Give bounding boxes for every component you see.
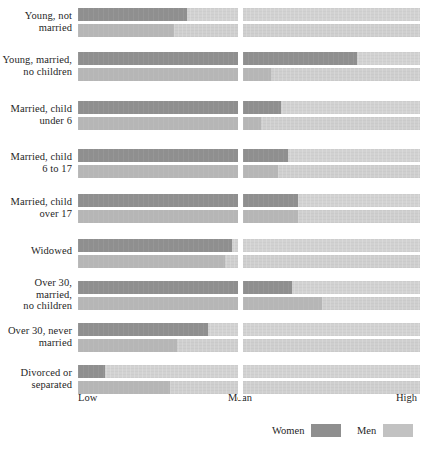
plot-area: Young, notmarriedYoung, married,no child… (0, 0, 435, 400)
row-label-line: over 17 (0, 208, 72, 220)
row-label-line: no children (0, 300, 72, 312)
bar-men-row-1 (78, 24, 420, 37)
bar-women-row-6 (78, 239, 420, 252)
legend-swatch-women (311, 424, 341, 437)
legend-label-men: Men (357, 425, 376, 436)
bar-women-row-5 (78, 194, 420, 207)
axis-tick-low: Low (78, 392, 97, 403)
row-label-2: Young, married,no children (0, 54, 72, 77)
row-label-4: Married, child6 to 17 (0, 151, 72, 174)
bar-fill (78, 165, 278, 178)
legend-entry-men: Men (357, 424, 413, 437)
row-label-1: Young, notmarried (0, 10, 72, 33)
bar-men-row-7 (78, 297, 420, 310)
row-label-line: Over 30, (0, 277, 72, 289)
legend-entry-women: Women (272, 424, 341, 437)
happiness-bar-chart: Young, notmarriedYoung, married,no child… (0, 0, 435, 455)
bar-fill (78, 194, 298, 207)
row-label-line: Married, child (0, 196, 72, 208)
row-label-line: Young, not (0, 10, 72, 22)
bar-women-row-2 (78, 52, 420, 65)
bar-men-row-6 (78, 255, 420, 268)
bar-fill (78, 149, 288, 162)
legend-swatch-men (383, 424, 413, 437)
bar-women-row-4 (78, 149, 420, 162)
bar-women-row-9 (78, 365, 420, 378)
row-label-line: Widowed (0, 245, 72, 257)
row-label-line: 6 to 17 (0, 163, 72, 175)
row-label-line: Over 30, never (0, 325, 72, 337)
bar-fill (78, 239, 232, 252)
bar-fill (78, 281, 292, 294)
row-label-line: married (0, 22, 72, 34)
legend-label-women: Women (272, 425, 304, 436)
bar-men-row-4 (78, 165, 420, 178)
row-label-6: Widowed (0, 245, 72, 257)
row-label-line: Young, married, (0, 54, 72, 66)
row-label-3: Married, childunder 6 (0, 103, 72, 126)
bar-women-row-7 (78, 281, 420, 294)
bar-women-row-8 (78, 323, 420, 336)
row-label-line: Divorced or (0, 367, 72, 379)
bar-men-row-5 (78, 210, 420, 223)
bar-men-row-3 (78, 117, 420, 130)
axis-tick-high: High (396, 392, 417, 403)
bar-fill (78, 365, 105, 378)
row-label-line: married (0, 337, 72, 349)
bar-fill (78, 8, 187, 21)
bar-fill (78, 210, 298, 223)
bar-track (78, 365, 420, 378)
bar-men-row-8 (78, 339, 420, 352)
row-label-line: under 6 (0, 115, 72, 127)
bar-fill (78, 101, 281, 114)
bar-fill (78, 297, 322, 310)
bar-women-row-3 (78, 101, 420, 114)
bar-fill (78, 117, 261, 130)
bar-fill (78, 323, 208, 336)
row-label-5: Married, childover 17 (0, 196, 72, 219)
bar-women-row-1 (78, 8, 420, 21)
chart-legend: Women Men (0, 424, 435, 446)
row-label-line: Married, child (0, 151, 72, 163)
bar-fill (78, 339, 177, 352)
row-label-line: married, (0, 289, 72, 301)
bar-fill (78, 24, 174, 37)
row-label-line: separated (0, 379, 72, 391)
x-axis: Low Mean High (0, 392, 435, 412)
row-label-8: Over 30, nevermarried (0, 325, 72, 348)
bar-men-row-2 (78, 68, 420, 81)
row-label-7: Over 30,married,no children (0, 277, 72, 312)
row-label-line: Married, child (0, 103, 72, 115)
row-label-9: Divorced orseparated (0, 367, 72, 390)
bar-fill (78, 255, 225, 268)
mean-gridline-gutter (238, 0, 243, 400)
row-label-line: no children (0, 66, 72, 78)
bar-fill (78, 52, 357, 65)
